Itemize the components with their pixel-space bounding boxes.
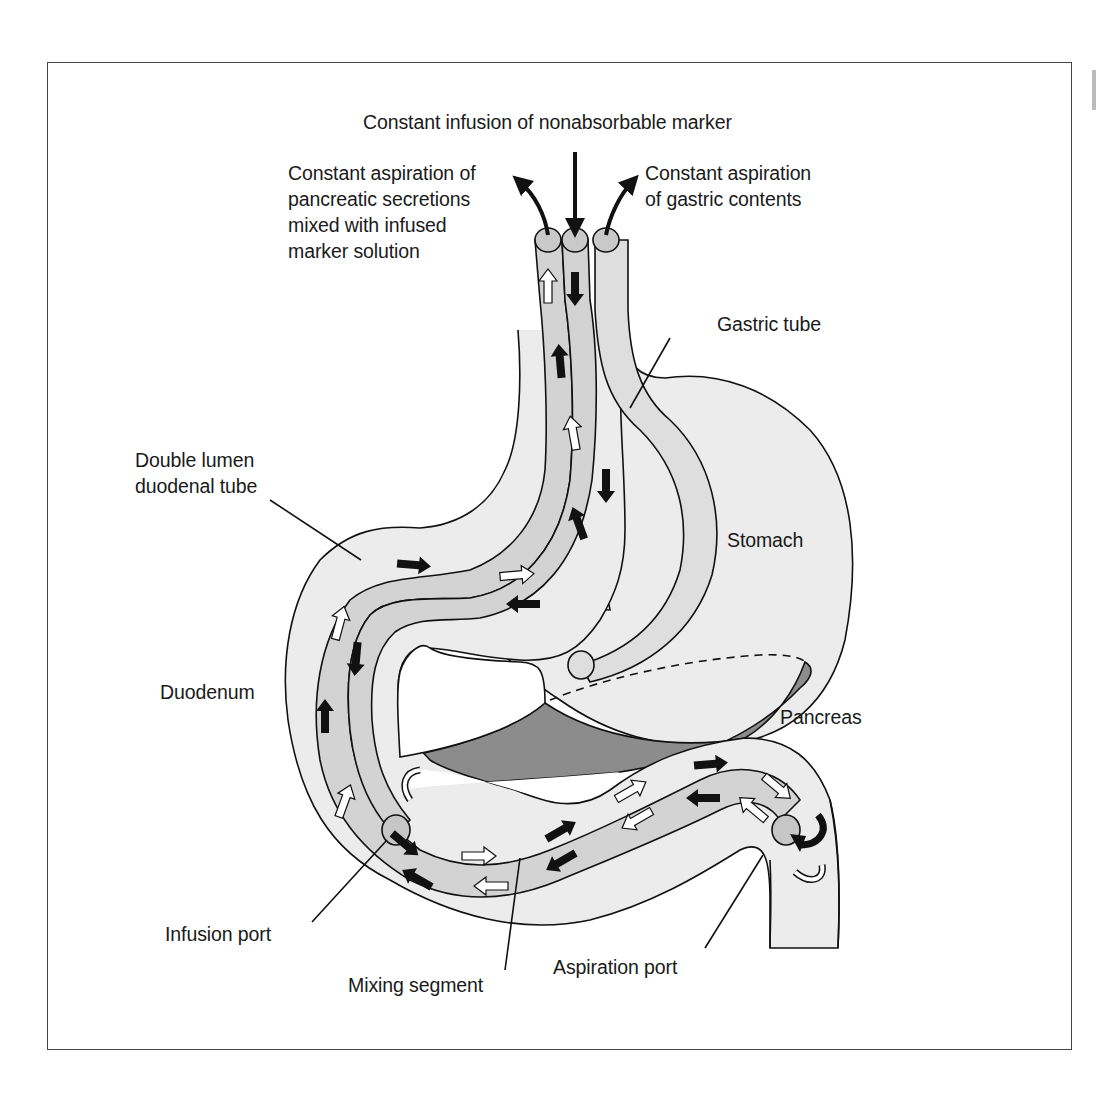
aspiration-out-arrow [520, 182, 548, 235]
external-arrows [520, 152, 632, 235]
gastric-out-arrow [606, 182, 632, 235]
label-pancreas: Pancreas [780, 705, 862, 729]
label-stomach: Stomach [727, 528, 803, 552]
label-infusion-marker: Constant infusion of nonabsorbable marke… [363, 110, 732, 134]
leader-double-lumen [270, 500, 361, 560]
label-infusion-port: Infusion port [165, 922, 271, 946]
label-double-lumen: Double lumen duodenal tube [135, 447, 257, 499]
infusion-lumen-opening [562, 228, 588, 252]
gastric-tube-opening [568, 651, 594, 679]
label-mixing-segment: Mixing segment [348, 973, 483, 997]
label-aspiration-port: Aspiration port [553, 955, 677, 979]
label-aspiration-gastric: Constant aspiration of gastric contents [645, 160, 811, 212]
leader-aspiration-port [705, 855, 763, 948]
label-aspiration-pancreatic: Constant aspiration of pancreatic secret… [288, 160, 476, 264]
label-gastric-tube: Gastric tube [717, 312, 821, 336]
label-duodenum: Duodenum [160, 680, 255, 704]
